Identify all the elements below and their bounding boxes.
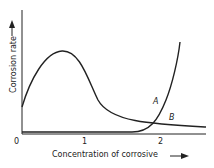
chart-plot <box>0 0 214 168</box>
curve-b <box>22 51 206 127</box>
curve-a <box>22 42 180 132</box>
tick-2: 2 <box>158 137 163 146</box>
curve-b-label: B <box>169 113 175 122</box>
y-axis-label: Corrosion rate <box>9 30 18 100</box>
x-axis-label: Concentration of corrosive <box>52 150 158 159</box>
curve-a-label: A <box>153 97 158 106</box>
tick-1: 1 <box>82 137 87 146</box>
tick-0: 0 <box>14 137 19 146</box>
x-arrow-icon <box>181 153 189 159</box>
